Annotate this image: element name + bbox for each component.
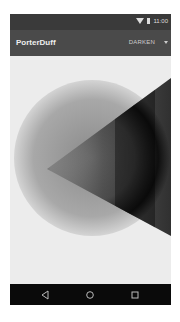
porterduff-canvas bbox=[10, 56, 171, 284]
battery-icon bbox=[147, 18, 150, 24]
status-bar: 11:00 bbox=[10, 14, 171, 30]
back-icon[interactable] bbox=[40, 290, 50, 300]
mode-spinner[interactable]: DARKEN bbox=[129, 39, 155, 45]
recents-icon[interactable] bbox=[130, 290, 140, 300]
status-time: 11:00 bbox=[153, 18, 168, 24]
phone-screen: 11:00 PorterDuff DARKEN bbox=[10, 14, 171, 305]
app-title: PorterDuff bbox=[16, 38, 56, 47]
wifi-icon bbox=[136, 18, 144, 24]
app-toolbar: PorterDuff DARKEN bbox=[10, 30, 171, 56]
chevron-down-icon[interactable] bbox=[164, 41, 168, 44]
navigation-bar bbox=[10, 284, 171, 305]
home-icon[interactable] bbox=[85, 290, 95, 300]
canvas-area bbox=[10, 56, 171, 284]
